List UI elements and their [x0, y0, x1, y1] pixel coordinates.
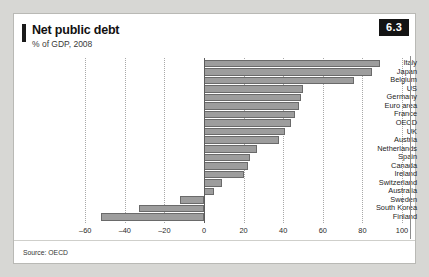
bar-row: OECD: [14, 119, 417, 127]
x-tick-label: 80: [358, 226, 366, 235]
bar: [204, 77, 354, 85]
bar-row: Netherlands: [14, 145, 417, 153]
bar: [204, 111, 295, 119]
bar-category-label: Finland: [360, 212, 417, 221]
zero-axis-line: [204, 58, 205, 223]
bar-row: Canada: [14, 162, 417, 170]
bar: [204, 102, 299, 110]
bar-row: Austria: [14, 136, 417, 144]
chart-title: Net public debt: [32, 23, 119, 37]
bar: [204, 171, 244, 179]
chart-figure: Net public debt % of GDP, 2008 6.3 Italy…: [13, 13, 416, 264]
bar: [180, 196, 204, 204]
bar: [204, 85, 303, 93]
bar-row: Finland: [14, 213, 417, 221]
bar: [204, 119, 291, 127]
bar-row: UK: [14, 128, 417, 136]
bar: [204, 179, 222, 187]
bar: [204, 154, 250, 162]
source-divider: [14, 240, 415, 241]
plot-area: ItalyJapanBelgiumUSGermanyEuro areaFranc…: [14, 58, 417, 223]
bar-row: Ireland: [14, 171, 417, 179]
title-accent-bar: [22, 24, 26, 42]
x-tick-label: 40: [279, 226, 287, 235]
bar: [204, 68, 372, 76]
x-tick-label: 60: [319, 226, 327, 235]
bar-row: Switzerland: [14, 179, 417, 187]
bar-row: South Korea: [14, 205, 417, 213]
bar: [204, 94, 301, 102]
bar: [204, 162, 248, 170]
bar: [204, 136, 279, 144]
right-axis-line: [410, 56, 411, 239]
bar-row: Australia: [14, 188, 417, 196]
bar: [204, 188, 214, 196]
source-note: Source: OECD: [23, 249, 68, 256]
bar-row: Sweden: [14, 196, 417, 204]
bar: [204, 60, 380, 68]
x-axis-tick-labels: –60–40–20020406080100: [14, 226, 417, 240]
bar: [139, 205, 204, 213]
bar-row: France: [14, 111, 417, 119]
x-tick-label: –40: [119, 226, 131, 235]
bar: [204, 128, 285, 136]
bar-row: US: [14, 85, 417, 93]
bar: [101, 213, 204, 221]
bar-row: Spain: [14, 154, 417, 162]
bar-row: Japan: [14, 68, 417, 76]
x-tick-label: –60: [79, 226, 91, 235]
chart-subtitle: % of GDP, 2008: [32, 39, 92, 49]
bar-row: Italy: [14, 60, 417, 68]
bar: [204, 145, 257, 153]
bar-row: Euro area: [14, 102, 417, 110]
bar-row: Belgium: [14, 77, 417, 85]
figure-number-badge: 6.3: [379, 19, 409, 36]
x-tick-label: –20: [158, 226, 170, 235]
bar-row: Germany: [14, 94, 417, 102]
x-tick-label: 20: [239, 226, 247, 235]
x-tick-label: 0: [202, 226, 206, 235]
x-tick-label: 100: [396, 226, 408, 235]
